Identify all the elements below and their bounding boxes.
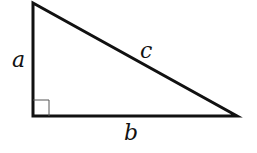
label-side-b: b (124, 120, 138, 145)
right-angle-marker (33, 100, 49, 116)
label-side-a: a (12, 47, 25, 72)
label-side-c: c (140, 38, 152, 63)
right-triangle-diagram: a c b (0, 0, 257, 153)
triangle-outline (33, 3, 237, 116)
